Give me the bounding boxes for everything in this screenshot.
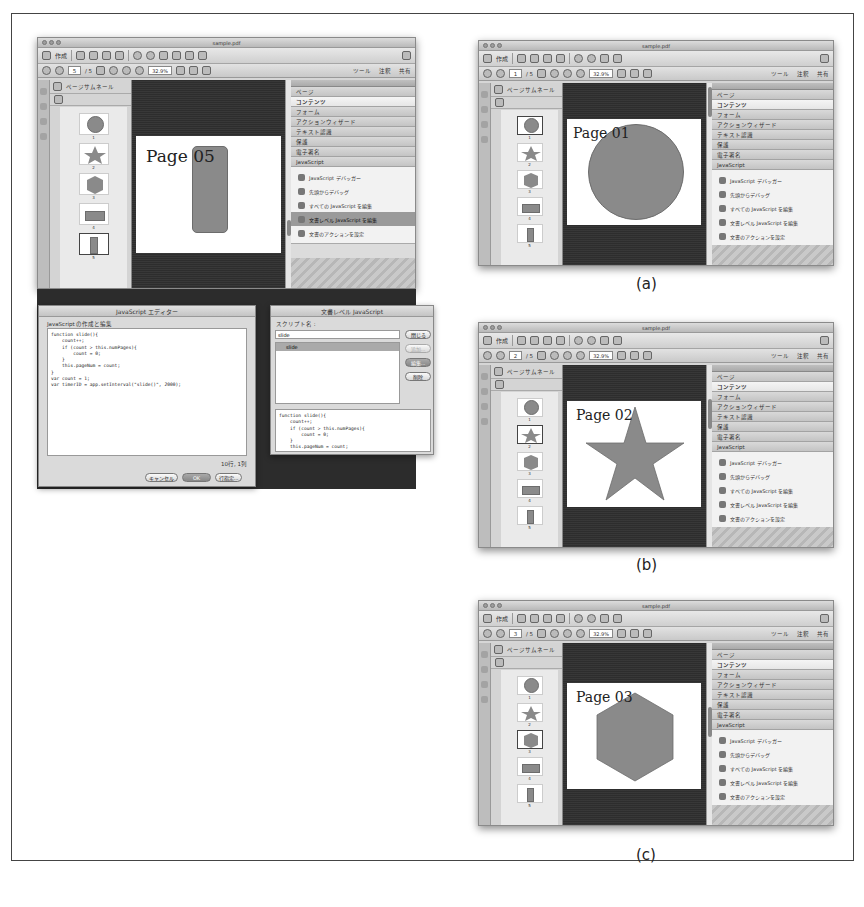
section-javascript[interactable]: JavaScript [712,720,833,730]
document-icon[interactable] [613,54,622,63]
fit-page-icon[interactable] [630,629,639,638]
section-javascript[interactable]: JavaScript [712,442,833,452]
find-icon[interactable] [643,351,652,360]
section-forms[interactable]: フォーム [712,110,833,120]
section-forms[interactable]: フォーム [712,392,833,402]
open-icon[interactable] [76,51,85,60]
zoom-level-select[interactable]: 32.9% [589,351,613,360]
section-action-wizard[interactable]: アクションウィザード [712,680,833,690]
page-number-input[interactable]: 1 [509,69,522,78]
document-icon[interactable] [172,51,181,60]
tools-tab[interactable]: ツール [353,67,371,75]
hand-tool-icon[interactable] [550,629,559,638]
thumbnail-page-2[interactable] [517,703,543,722]
prev-page-icon[interactable] [483,629,492,638]
page-number-input[interactable]: 3 [509,629,522,638]
thumbnail-page-2[interactable] [517,425,543,444]
create-icon[interactable] [483,336,492,345]
fit-page-icon[interactable] [630,351,639,360]
section-signatures[interactable]: 電子署名 [712,432,833,442]
thumbnail-page-3[interactable] [517,452,543,471]
tools-tab[interactable]: ツール [771,70,789,78]
section-text-recognition[interactable]: テキスト認識 [712,412,833,422]
fullscreen-icon[interactable] [820,54,829,63]
print-icon[interactable] [543,614,552,623]
open-icon[interactable] [517,54,526,63]
select-tool-icon[interactable] [537,69,546,78]
window-controls[interactable] [483,603,502,608]
settings-icon[interactable] [133,51,142,60]
fullscreen-icon[interactable] [820,336,829,345]
thumbnail-page-2[interactable] [517,143,543,162]
zoom-level-select[interactable]: 32.9% [589,69,613,78]
js-debugger-item[interactable]: JavaScript デバッガー [712,455,833,469]
section-content[interactable]: コンテンツ [712,382,833,392]
fullscreen-icon[interactable] [820,614,829,623]
section-text-recognition[interactable]: テキスト認識 [712,130,833,140]
section-protection[interactable]: 保護 [712,422,833,432]
zoom-in-icon[interactable] [576,69,585,78]
thumbnail-page-1[interactable] [79,113,109,135]
section-pages[interactable]: ページ [291,87,415,97]
fit-width-icon[interactable] [617,69,626,78]
next-page-icon[interactable] [496,351,505,360]
prev-page-icon[interactable] [42,66,51,75]
section-protection[interactable]: 保護 [291,137,415,147]
script-list[interactable]: slide [275,342,400,404]
next-page-icon[interactable] [496,69,505,78]
prev-page-icon[interactable] [483,351,492,360]
zoom-level-select[interactable]: 32.9% [589,629,613,638]
email-icon[interactable] [556,614,565,623]
section-content[interactable]: コンテンツ [291,97,415,107]
zoom-out-icon[interactable] [563,69,572,78]
document-icon[interactable] [613,614,622,623]
print-icon[interactable] [543,336,552,345]
edit-all-js-item[interactable]: すべての JavaScript を編集 [291,198,415,212]
create-icon[interactable] [483,54,492,63]
section-content[interactable]: コンテンツ [712,100,833,110]
open-icon[interactable] [517,614,526,623]
edit-button[interactable]: 編集... [405,358,431,367]
share-tab[interactable]: 共有 [399,67,411,75]
hand-tool-icon[interactable] [550,351,559,360]
zoom-in-icon[interactable] [576,629,585,638]
create-icon[interactable] [42,51,51,60]
thumbnail-page-4[interactable] [517,479,543,498]
document-js-item[interactable]: 文書レベル JavaScript を編集 [712,775,833,789]
zoom-out-icon[interactable] [122,66,131,75]
section-forms[interactable]: フォーム [712,670,833,680]
settings-icon[interactable] [574,336,583,345]
thumbnail-page-3[interactable] [79,173,109,195]
section-signatures[interactable]: 電子署名 [712,150,833,160]
settings-icon[interactable] [574,614,583,623]
debug-from-start-item[interactable]: 先頭からデバッグ [291,184,415,198]
tools-tab[interactable]: ツール [771,630,789,638]
select-tool-icon[interactable] [537,629,546,638]
thumbnail-page-4[interactable] [79,203,109,225]
open-icon[interactable] [517,336,526,345]
zoom-in-icon[interactable] [135,66,144,75]
close-button[interactable]: 閉じる [405,330,431,339]
thumbnail-page-3[interactable] [517,170,543,189]
document-icon[interactable] [613,336,622,345]
save-icon[interactable] [89,51,98,60]
section-javascript[interactable]: JavaScript [712,160,833,170]
create-icon[interactable] [483,614,492,623]
fit-page-icon[interactable] [189,66,198,75]
document-view[interactable]: Page 01 [563,83,706,265]
save-icon[interactable] [530,614,539,623]
add-button[interactable]: 追加... [405,344,431,353]
document-actions-item[interactable]: 文書のアクションを設定 [291,226,415,240]
section-signatures[interactable]: 電子署名 [712,710,833,720]
select-tool-icon[interactable] [537,351,546,360]
create-menu[interactable]: 作成 [55,51,67,60]
section-action-wizard[interactable]: アクションウィザード [291,117,415,127]
review-icon[interactable] [159,51,168,60]
comment-icon[interactable] [146,51,155,60]
debug-from-start-item[interactable]: 先頭からデバッグ [712,187,833,201]
edit-all-js-item[interactable]: すべての JavaScript を編集 [712,483,833,497]
delete-button[interactable]: 削除 [405,372,431,381]
thumbnail-page-1[interactable] [517,398,543,417]
script-name-input[interactable]: slide [275,330,400,339]
thumbnail-page-2[interactable] [79,143,109,165]
